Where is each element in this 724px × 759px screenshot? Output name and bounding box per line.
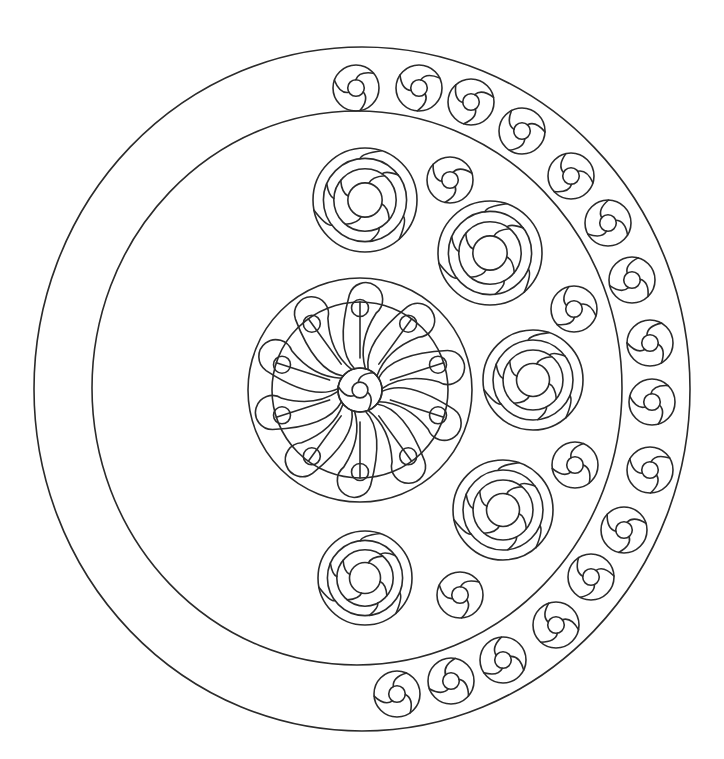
small-rosette — [437, 572, 483, 618]
swirl-line — [494, 229, 510, 237]
swirl-line — [588, 231, 607, 236]
swirl-line — [459, 679, 468, 696]
rosette-ring — [463, 470, 543, 550]
swirl-line — [343, 560, 350, 574]
swirl-line — [393, 673, 406, 687]
swirl-line — [545, 603, 549, 622]
swirl-line — [577, 558, 583, 577]
swirl-line — [464, 109, 476, 124]
swirl-line — [537, 357, 552, 364]
swirl-line — [470, 270, 486, 278]
band-rosette — [585, 200, 631, 246]
spoke-line — [276, 400, 329, 417]
rosette-ring — [318, 531, 412, 625]
large-rosette — [483, 330, 583, 430]
rosette-ring — [448, 211, 531, 294]
rosette-hub — [616, 522, 633, 539]
swirl-line — [549, 384, 556, 399]
swirl-line — [466, 494, 473, 508]
rosette-ring — [438, 201, 542, 305]
band-rosette — [533, 602, 579, 648]
rosette-rim — [627, 320, 673, 366]
swirl-line — [455, 85, 462, 103]
swirl-line — [509, 111, 514, 130]
rosette-ring — [473, 480, 533, 540]
swirl-line — [334, 80, 349, 92]
swirl-line — [466, 233, 474, 249]
swirl-line — [327, 184, 334, 199]
swirl-line — [658, 405, 662, 424]
large-rosette — [318, 531, 412, 625]
rosette-rim — [396, 65, 442, 111]
band-rosette — [374, 671, 420, 717]
swirl-line — [453, 169, 472, 173]
medallion-hub-swirl — [338, 368, 382, 412]
medallion-petal — [343, 283, 383, 369]
rosette-hub — [442, 172, 459, 189]
rosette-rim — [585, 200, 631, 246]
swirl-line — [429, 689, 448, 693]
swirl-line — [485, 204, 507, 212]
rosette-hub — [563, 168, 580, 185]
swirl-line — [380, 582, 387, 596]
swirl-line — [358, 373, 374, 383]
rosette-ring — [337, 550, 393, 606]
rosette-ring — [493, 340, 573, 420]
swirl-line — [581, 304, 596, 316]
swirl-line — [630, 459, 643, 473]
band-rosette — [396, 65, 442, 111]
swirl-line — [405, 695, 411, 713]
large-rosette — [313, 148, 417, 252]
rosette-hub — [348, 183, 382, 217]
swirl-line — [616, 220, 628, 235]
swirl-line — [514, 396, 529, 403]
swirl-line — [528, 333, 549, 341]
swirl-line — [651, 457, 670, 462]
swirl-line — [651, 386, 668, 394]
band-rosette — [568, 554, 614, 600]
swirl-line — [369, 176, 385, 184]
spoke-line — [390, 400, 443, 417]
rosette-ring — [334, 169, 396, 231]
rosette-hub — [463, 94, 480, 111]
band-rosette — [601, 507, 647, 553]
swirl-line — [433, 164, 442, 181]
band-rosette — [499, 108, 545, 154]
rosette-rim — [428, 658, 474, 704]
band-rosette — [333, 65, 379, 111]
medallion-petal — [368, 303, 435, 376]
rosette-ring — [503, 350, 563, 410]
swirl-line — [484, 668, 502, 674]
swirl-line — [345, 217, 361, 225]
swirl-line — [400, 75, 411, 90]
rosette-hub — [642, 335, 659, 352]
swirl-line — [347, 593, 361, 600]
rosette-rim — [427, 157, 473, 203]
swirl-line — [510, 139, 525, 151]
mandala-artwork — [0, 0, 724, 759]
band-rosette — [480, 637, 526, 683]
swirl-line — [480, 491, 487, 506]
medallion-petal — [285, 404, 352, 477]
swirl-line — [360, 151, 382, 159]
center-medallion — [248, 278, 472, 502]
rosette-hub — [567, 457, 584, 474]
rosette-hub — [349, 562, 380, 593]
spoke-line — [308, 319, 341, 364]
rosette-rim — [499, 108, 545, 154]
swirl-line — [511, 656, 524, 670]
swirl-line — [580, 585, 594, 598]
spoke-line — [379, 416, 412, 461]
rosette-ring — [313, 148, 417, 252]
swirl-line — [498, 463, 519, 471]
band-rosette — [428, 658, 474, 704]
band-rosette — [448, 79, 494, 125]
rosette-hub — [642, 462, 659, 479]
rosette-hub — [517, 364, 550, 397]
inner-ring — [92, 111, 622, 665]
band-rosette — [627, 447, 673, 493]
swirl-line — [541, 633, 558, 642]
large-rosette — [453, 460, 553, 560]
rosette-rim — [333, 65, 379, 111]
rosette-rim — [601, 507, 647, 553]
